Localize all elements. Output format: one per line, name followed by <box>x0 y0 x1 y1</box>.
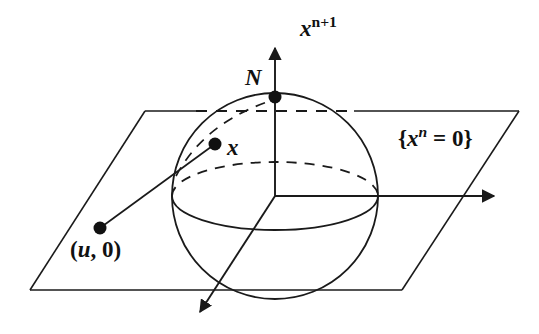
plane-set-superscript: n <box>419 123 428 140</box>
plane-set-open-brace: { <box>398 126 407 151</box>
plane-point-label: (u, 0) <box>70 238 121 261</box>
plane-point-open-paren: ( <box>70 237 78 262</box>
plane-set-close-brace: } <box>463 126 472 151</box>
plane-point-zero: 0 <box>102 237 114 262</box>
north-pole-dot <box>269 91 282 104</box>
plane-point-close-paren: ) <box>113 237 121 262</box>
plane-set-base: x <box>407 126 419 151</box>
sphere-point-label: x <box>227 136 239 159</box>
plane-set-relation: = 0 <box>427 126 463 151</box>
equator-front-arc <box>172 196 378 230</box>
vertical-axis-label-superscript: n+1 <box>312 13 337 30</box>
plane-point-u0-dot <box>94 222 107 235</box>
plane-point-comma: , <box>90 237 102 262</box>
ray-u0-to-x <box>100 144 215 228</box>
plane-point-u: u <box>78 237 91 262</box>
plane-left-edge <box>30 111 145 290</box>
depth-axis <box>200 196 275 312</box>
vertical-axis-label: xn+1 <box>300 14 337 40</box>
north-pole-label: N <box>245 66 262 89</box>
vertical-axis-label-base: x <box>300 16 312 41</box>
figure-canvas <box>0 0 539 334</box>
sphere-point-x-dot <box>209 138 222 151</box>
stereographic-projection-figure: xn+1 N x {xn = 0} (u, 0) <box>0 0 539 334</box>
plane-set-label: {xn = 0} <box>398 124 472 150</box>
projection-ray <box>100 144 215 228</box>
